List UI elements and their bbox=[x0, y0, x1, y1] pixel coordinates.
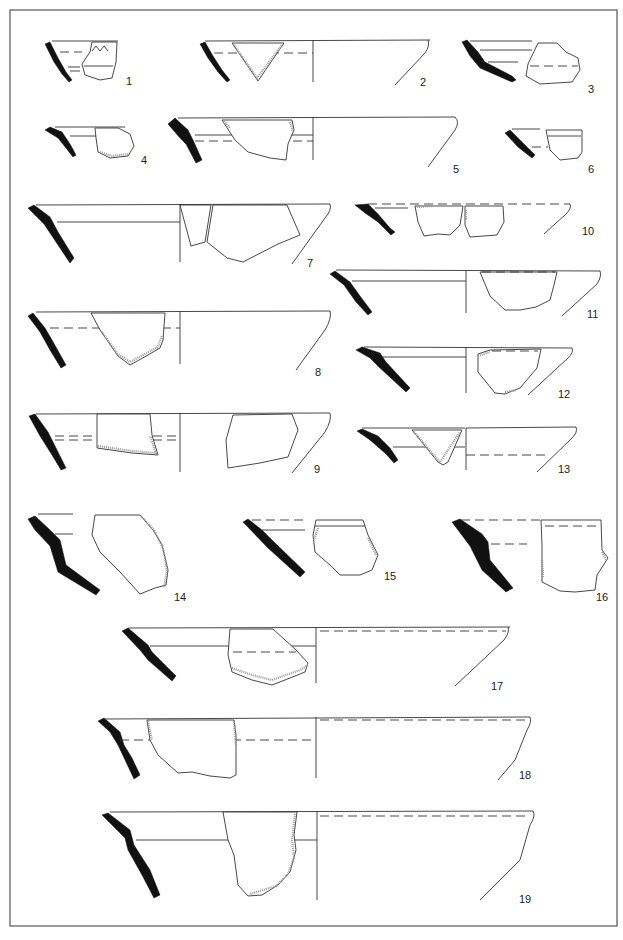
figure-number-10: 10 bbox=[582, 225, 594, 237]
figure-number-3: 3 bbox=[588, 83, 594, 95]
figure-13-drawing bbox=[357, 427, 577, 472]
figure-number-18: 18 bbox=[519, 769, 531, 781]
figure-number-8: 8 bbox=[315, 366, 321, 378]
figure-1-drawing bbox=[45, 41, 118, 82]
figure-number-12: 12 bbox=[558, 388, 570, 400]
figure-number-1: 1 bbox=[126, 75, 132, 87]
figure-7-drawing bbox=[28, 204, 330, 264]
figure-number-11: 11 bbox=[587, 308, 598, 320]
figure-number-9: 9 bbox=[314, 463, 320, 475]
figure-18-drawing bbox=[98, 717, 531, 780]
figure-number-2: 2 bbox=[420, 76, 426, 88]
figure-3-drawing bbox=[462, 40, 580, 84]
figure-19-drawing bbox=[102, 811, 534, 900]
pottery-plate: 1 2 3 4 5 6 7 8 9 10 11 12 13 14 15 16 1… bbox=[0, 0, 623, 940]
figure-16-drawing bbox=[452, 519, 608, 592]
figure-9-drawing bbox=[29, 413, 330, 473]
figure-number-13: 13 bbox=[558, 463, 570, 475]
figure-number-4: 4 bbox=[141, 154, 147, 166]
figure-6-drawing bbox=[505, 129, 582, 160]
figure-2-drawing bbox=[200, 40, 430, 85]
figure-4-drawing bbox=[45, 127, 134, 158]
figure-14-drawing bbox=[28, 514, 168, 595]
figure-number-19: 19 bbox=[519, 893, 531, 905]
figure-number-6: 6 bbox=[588, 163, 594, 175]
figure-11-drawing bbox=[330, 270, 601, 316]
figure-number-7: 7 bbox=[307, 257, 313, 269]
figure-8-drawing bbox=[28, 311, 330, 370]
figure-17-drawing bbox=[122, 627, 510, 686]
figure-12-drawing bbox=[356, 347, 573, 395]
figure-number-14: 14 bbox=[174, 591, 186, 603]
figure-number-17: 17 bbox=[491, 680, 503, 692]
plate-drawing bbox=[0, 0, 623, 940]
figure-number-15: 15 bbox=[384, 570, 396, 582]
figure-10-drawing bbox=[355, 204, 571, 237]
figure-number-5: 5 bbox=[453, 163, 459, 175]
figure-number-16: 16 bbox=[596, 591, 608, 603]
figure-15-drawing bbox=[243, 519, 378, 577]
figure-5-drawing bbox=[168, 117, 458, 167]
